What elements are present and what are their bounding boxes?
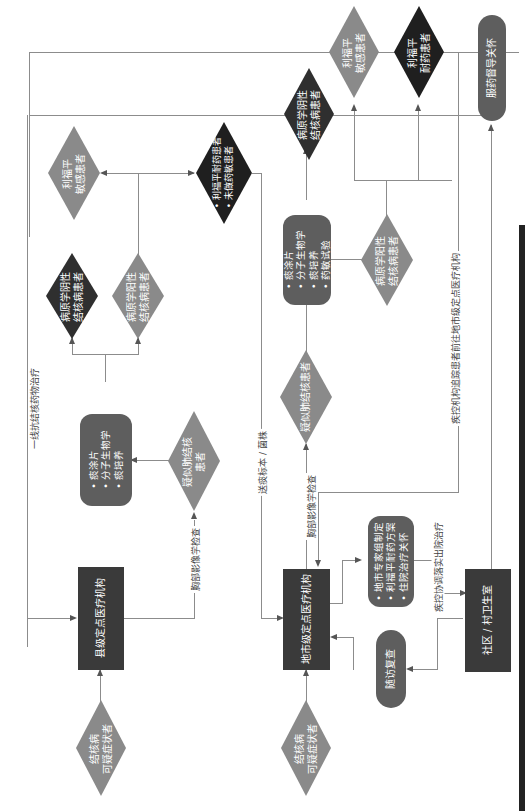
start-suspect-county[interactable]: 结核病可疑症状者 bbox=[76, 700, 126, 796]
connector bbox=[105, 354, 106, 382]
connector bbox=[134, 460, 169, 461]
negative-tb-county[interactable]: 病原学阴性结核病患者 bbox=[46, 253, 98, 339]
connector bbox=[437, 618, 463, 619]
connector bbox=[354, 106, 355, 181]
connector bbox=[336, 637, 354, 638]
connector bbox=[318, 492, 319, 562]
arrow bbox=[488, 124, 494, 131]
rif-sensitive-county[interactable]: 利福平敏感患者 bbox=[48, 126, 100, 220]
connector bbox=[411, 669, 438, 670]
rif-resistant-city[interactable]: 利福平耐药患者 bbox=[394, 6, 444, 98]
positive-tb-city[interactable]: 病原学阳性结核病患者 bbox=[361, 214, 413, 306]
edge-label-chest-imaging-county: 胸部影像学检查 bbox=[189, 526, 202, 593]
start-suspect-city[interactable]: 结核病可疑症状者 bbox=[281, 700, 331, 796]
arrow bbox=[97, 669, 103, 676]
arrow bbox=[415, 104, 421, 111]
rif-resistant-county[interactable]: • 利福平耐药患者• 未做药敏患者 bbox=[196, 122, 252, 224]
connector bbox=[437, 618, 438, 670]
connector bbox=[261, 618, 278, 619]
connector bbox=[342, 560, 356, 561]
connector bbox=[104, 173, 194, 174]
suspected-tb-county[interactable]: 疑似肺结核患者 bbox=[168, 411, 220, 511]
connector bbox=[353, 637, 354, 670]
arrow bbox=[100, 170, 107, 176]
connector bbox=[413, 560, 433, 561]
connector bbox=[138, 173, 139, 263]
city-facility[interactable]: 地市级定点医疗机构 bbox=[283, 569, 330, 670]
connector bbox=[330, 603, 342, 604]
connector bbox=[124, 618, 194, 619]
expert-group[interactable]: • 地市专家组制定• 利福平耐药方案• 住院治疗关怀 bbox=[368, 516, 414, 607]
connector bbox=[72, 354, 139, 355]
medication-supervision[interactable]: 服药督导关怀 bbox=[478, 15, 506, 121]
edge-label-send-specimen: 送痰标本 / 菌株 bbox=[256, 429, 269, 496]
connector bbox=[318, 492, 459, 493]
connector bbox=[29, 52, 30, 237]
connector bbox=[27, 618, 71, 619]
community-clinic[interactable]: 社区 / 村卫生室 bbox=[465, 569, 511, 672]
connector bbox=[491, 125, 492, 570]
positive-tb-county[interactable]: 病原学阳性结核病患者 bbox=[112, 253, 164, 339]
connector bbox=[354, 180, 452, 181]
arrow bbox=[303, 443, 309, 450]
edge-label-first-line: 一线抗结核药物治疗 bbox=[28, 366, 41, 451]
arrow bbox=[70, 615, 77, 621]
edge-label-chest-imaging-city: 胸部影像学检查 bbox=[305, 473, 318, 540]
connector bbox=[342, 560, 343, 604]
followup-review[interactable]: 随访复查 bbox=[376, 630, 406, 708]
rif-sensitive-city[interactable]: 利福平敏感患者 bbox=[329, 6, 379, 98]
negative-tb-city[interactable]: 病原学阴性结核病患者 bbox=[284, 68, 334, 160]
arrow bbox=[330, 634, 337, 640]
tests-city[interactable]: • 痰涂片• 分子生物学• 痰培养• 药敏试验 bbox=[283, 215, 331, 305]
edge-label-cdc-coordinate: 疾控协调落实出院治疗 bbox=[432, 520, 445, 614]
connector bbox=[418, 106, 419, 181]
tests-county[interactable]: • 痰涂片• 分子生物学• 痰培养 bbox=[80, 414, 132, 506]
arrow bbox=[188, 170, 195, 176]
arrow bbox=[303, 669, 309, 676]
county-facility[interactable]: 县级定点医疗机构 bbox=[78, 567, 124, 670]
arrow bbox=[315, 560, 321, 567]
suspected-tb-city[interactable]: 疑似肺结核患者 bbox=[280, 350, 332, 444]
arrow bbox=[351, 104, 357, 111]
arrow bbox=[191, 512, 197, 519]
arrow bbox=[406, 666, 413, 672]
connector bbox=[29, 115, 499, 116]
connector bbox=[261, 173, 262, 619]
page-edge bbox=[519, 225, 525, 811]
arrow bbox=[355, 557, 362, 563]
edge-label-cdc-track: 疾控机构追踪患者前往地市级定点医疗机构 bbox=[449, 251, 462, 426]
connector bbox=[29, 52, 519, 53]
